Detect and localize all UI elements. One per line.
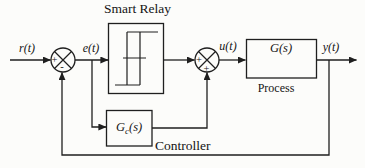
control-signal-label: u(t) <box>219 39 236 53</box>
sum1-plus-sign: + <box>52 54 58 65</box>
smart-relay-block: Smart Relay <box>104 1 171 94</box>
controller-transfer-function-label: Gc(s) <box>116 120 142 136</box>
summing-junction-input: + - <box>51 48 75 72</box>
process-transfer-function-label: G(s) <box>270 41 292 55</box>
process-block: G(s) Process <box>247 40 317 95</box>
process-caption: Process <box>258 81 295 95</box>
error-branch-to-controller-wire <box>92 60 106 127</box>
block-diagram-figure: + - + + Smart Relay G(s) Process Gc(s) C… <box>0 0 365 168</box>
sum2-bottom-plus-sign: + <box>204 63 210 74</box>
smart-relay-title: Smart Relay <box>104 1 171 16</box>
controller-caption: Controller <box>155 138 211 153</box>
error-signal-label: e(t) <box>83 41 100 55</box>
output-signal-label: y(t) <box>322 40 340 54</box>
controller-block: Gc(s) Controller <box>107 111 211 154</box>
reference-signal-label: r(t) <box>19 41 35 55</box>
summing-junction-control: + + <box>195 48 219 74</box>
sum1-minus-sign: - <box>60 61 64 72</box>
sum2-left-plus-sign: + <box>196 54 202 65</box>
diagram-canvas: + - + + Smart Relay G(s) Process Gc(s) C… <box>0 0 365 168</box>
